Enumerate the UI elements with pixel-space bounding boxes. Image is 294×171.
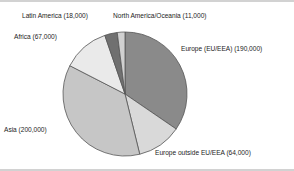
pie-label-europe-eu: Europe (EU/EEA) (190,000) — [181, 45, 262, 53]
pie-label-europe-outside-eu: Europe outside EU/EEA (64,000) — [155, 149, 251, 157]
pie-slices — [63, 32, 187, 156]
pie-label-latin-america: Latin America (18,000) — [22, 12, 88, 20]
pie-label-africa: Africa (67,000) — [14, 33, 57, 41]
pie-chart-graphic — [0, 2, 294, 171]
pie-label-north-america-oceania: North America/Oceania (11,000) — [113, 12, 206, 20]
pie-label-asia: Asia (200,000) — [4, 126, 47, 134]
pie-chart-figure: Latin America (18,000) North America/Oce… — [0, 0, 294, 171]
